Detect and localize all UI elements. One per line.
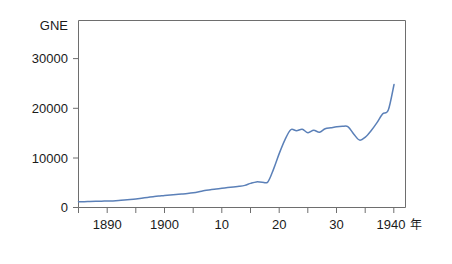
x-tick-label-1890: 1890 [93,217,122,232]
y-axis-title: GNE [40,18,69,33]
x-axis-unit-label: 年 [410,218,422,232]
gne-series-line [79,84,395,201]
y-tick-label-30000: 30000 [32,51,68,66]
x-tick-label-1930: 30 [329,217,343,232]
chart-container: 0 10000 20000 30000 GNE 1890 1900 10 [0,0,452,264]
x-tick-label-1940: 1940 [377,217,406,232]
x-tick-label-1900: 1900 [150,217,179,232]
y-tick-label-20000: 20000 [32,101,68,116]
y-axis-ticks [73,59,79,208]
y-axis-tick-labels: 0 10000 20000 30000 [32,51,68,215]
x-tick-label-1910: 10 [215,217,229,232]
gne-line-chart: 0 10000 20000 30000 GNE 1890 1900 10 [0,0,452,264]
y-tick-label-10000: 10000 [32,151,68,166]
x-tick-label-1920: 20 [272,217,286,232]
plot-frame [79,21,406,208]
y-tick-label-0: 0 [61,200,68,215]
x-axis-ticks [79,208,394,214]
x-axis-tick-labels: 1890 1900 10 20 30 1940 年 [93,217,422,232]
